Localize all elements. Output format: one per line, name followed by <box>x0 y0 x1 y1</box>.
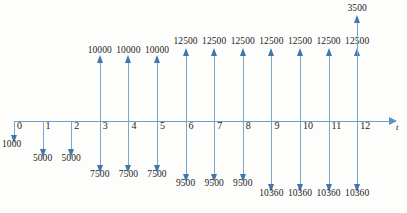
outflow-label-t0: 1000 <box>2 139 21 149</box>
outflow-arrow-t2-5000 <box>71 121 72 150</box>
inflow-arrow-t10-12500 <box>300 55 301 121</box>
outflow-arrow-t3-7500 <box>100 121 101 166</box>
inflow-arrow-t11-12500 <box>329 55 330 121</box>
outflow-label-t9: 10360 <box>259 188 283 198</box>
outflow-label-t4: 7500 <box>119 169 138 179</box>
axis-tick-label-10: 10 <box>303 120 313 131</box>
outflow-label-t8: 9500 <box>233 178 252 188</box>
axis-tick-label-5: 5 <box>160 120 165 131</box>
arrow-up-head-icon <box>125 55 131 63</box>
axis-tick-label-7: 7 <box>217 120 222 131</box>
outflow-label-t7: 9500 <box>204 178 223 188</box>
axis-tick-label-8: 8 <box>246 120 251 131</box>
arrow-up-head-icon <box>297 48 303 56</box>
outflow-arrow-t1-5000 <box>43 121 44 150</box>
outflow-label-t5: 7500 <box>147 169 166 179</box>
inflow-arrow-t3-10000 <box>100 62 101 121</box>
outflow-label-t2: 5000 <box>61 153 80 163</box>
inflow-arrow-t12-3500 <box>357 22 358 121</box>
inflow-label-t10: 12500 <box>288 36 312 46</box>
outflow-arrow-t8-9500 <box>243 121 244 175</box>
inflow-label-t6: 12500 <box>173 36 197 46</box>
arrow-up-head-icon <box>154 55 160 63</box>
inflow-label-t12: 3500 <box>347 3 366 13</box>
outflow-arrow-t5-7500 <box>157 121 158 166</box>
outflow-arrow-t6-9500 <box>186 121 187 175</box>
inflow-arrow-t9-12500 <box>271 55 272 121</box>
arrow-up-head-icon <box>183 48 189 56</box>
outflow-arrow-t10-10360 <box>300 121 301 185</box>
inflow-label-t3: 10000 <box>88 45 112 55</box>
axis-tick-label-4: 4 <box>131 120 136 131</box>
axis-tick-label-3: 3 <box>103 120 108 131</box>
arrow-up-head-icon <box>211 48 217 56</box>
arrow-up-head-icon <box>268 48 274 56</box>
axis-tick-label-9: 9 <box>274 120 279 131</box>
inflow-arrow-t4-10000 <box>128 62 129 121</box>
outflow-label-t1: 5000 <box>33 153 52 163</box>
arrow-up-head-icon <box>97 55 103 63</box>
outflow-label-t11: 10360 <box>316 188 340 198</box>
inflow-label-t5: 10000 <box>145 45 169 55</box>
axis-tick-label-12: 12 <box>360 120 370 131</box>
outflow-label-t6: 9500 <box>176 178 195 188</box>
arrow-up-head-icon <box>240 48 246 56</box>
inflow-label-t11: 12500 <box>316 36 340 46</box>
arrow-up-head-icon <box>326 48 332 56</box>
outflow-arrow-t4-7500 <box>128 121 129 166</box>
cash-flow-diagram: t 0123456789101112 100001000010000125001… <box>0 0 407 213</box>
outflow-label-t10: 10360 <box>288 188 312 198</box>
axis-tick-label-11: 11 <box>332 120 342 131</box>
inflow-label-t8: 12500 <box>231 36 255 46</box>
outflow-arrow-t11-10360 <box>329 121 330 185</box>
arrow-up-head-icon <box>354 15 360 23</box>
outflow-arrow-t12-10360 <box>357 121 358 185</box>
outflow-arrow-t0-1000 <box>14 121 15 136</box>
time-axis-label: t <box>396 122 399 132</box>
axis-tick-label-1: 1 <box>46 120 51 131</box>
inflow-arrow-t5-10000 <box>157 62 158 121</box>
outflow-label-t12: 10360 <box>345 188 369 198</box>
inflow-arrow-t7-12500 <box>214 55 215 121</box>
inflow-arrow-t6-12500 <box>186 55 187 121</box>
inflow-label-t4: 10000 <box>116 45 140 55</box>
outflow-arrow-t7-9500 <box>214 121 215 175</box>
axis-tick-label-6: 6 <box>189 120 194 131</box>
inflow-label-t9: 12500 <box>259 36 283 46</box>
outflow-label-t3: 7500 <box>90 169 109 179</box>
inflow-arrow-t8-12500 <box>243 55 244 121</box>
axis-tick-label-2: 2 <box>74 120 79 131</box>
inflow-label-t7: 12500 <box>202 36 226 46</box>
axis-tick-label-0: 0 <box>17 120 22 131</box>
outflow-arrow-t9-10360 <box>271 121 272 185</box>
